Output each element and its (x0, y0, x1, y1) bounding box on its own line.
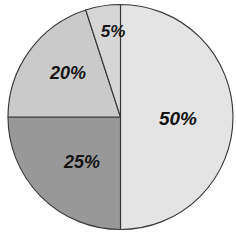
pie-chart-svg: 50%25%20%5% (0, 0, 236, 237)
pie-slice-label-50: 50% (159, 108, 197, 129)
pie-chart-figure: 50%25%20%5% (0, 0, 236, 237)
pie-slice-label-5: 5% (101, 22, 126, 41)
pie-slice-label-25: 25% (63, 152, 100, 172)
pie-slice-label-20: 20% (49, 63, 86, 83)
